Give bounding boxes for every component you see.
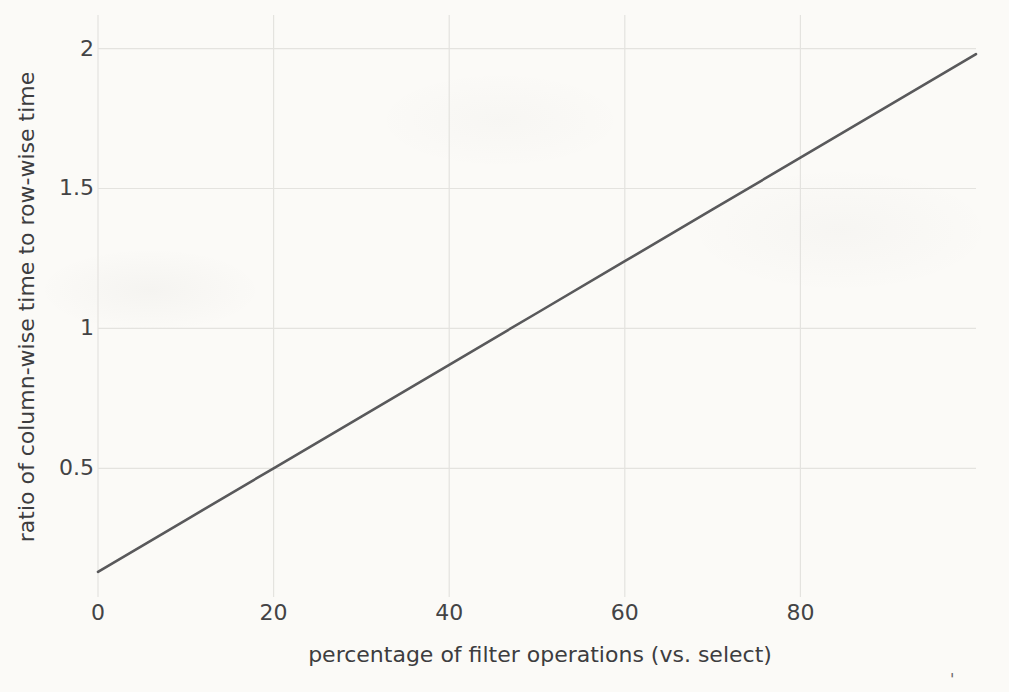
x-axis-title: percentage of filter operations (vs. sel… — [308, 642, 772, 667]
x-tick-label-60: 60 — [611, 602, 639, 624]
x-tick-label-0: 0 — [91, 602, 105, 624]
y-tick-label-1: 1 — [80, 317, 94, 339]
data-line — [98, 54, 976, 572]
x-tick-label-80: 80 — [786, 602, 814, 624]
plot-area — [0, 0, 1009, 692]
scan-artifact: ' — [950, 672, 954, 688]
x-tick-label-40: 40 — [435, 602, 463, 624]
y-tick-label-1.5: 1.5 — [59, 177, 94, 199]
y-tick-label-2: 2 — [80, 38, 94, 60]
y-tick-label-0.5: 0.5 — [59, 457, 94, 479]
y-axis-title: ratio of column-wise time to row-wise ti… — [14, 72, 39, 542]
x-tick-label-20: 20 — [260, 602, 288, 624]
chart-figure: 0.511.52 020406080 percentage of filter … — [0, 0, 1009, 692]
